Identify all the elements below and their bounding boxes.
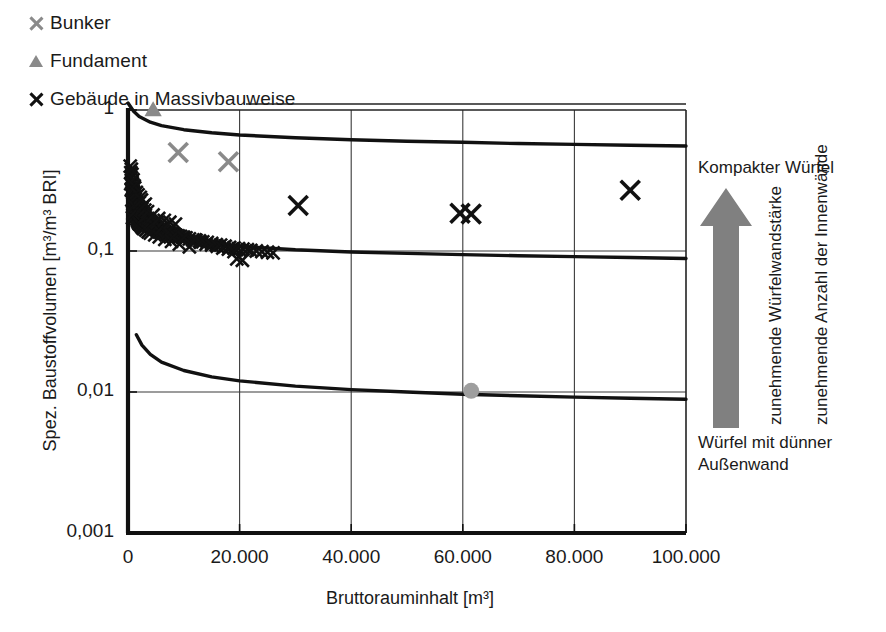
- annotation-bottom-line1: Würfel mit dünner: [698, 432, 832, 454]
- x-tick-label: 40.000: [296, 546, 406, 568]
- x-tick-label: 60.000: [408, 546, 518, 568]
- lower-reference-curve: [136, 335, 686, 400]
- data-point-x: [462, 204, 481, 223]
- x-tick-label: 20.000: [185, 546, 295, 568]
- data-point-x: [289, 196, 308, 215]
- annotation-bottom-label: Würfel mit dünner Außenwand: [698, 432, 832, 476]
- y-tick-label: 1: [34, 97, 114, 119]
- y-axis-title: Spez. Baustoffvolumen [m³/m³ BRI]: [40, 141, 61, 481]
- data-point-x: [621, 181, 640, 200]
- chart-page: Bunker Fundament Gebäude in Massivbauwei…: [0, 0, 886, 632]
- data-point-triangle: [144, 101, 161, 116]
- x-tick-label: 80.000: [519, 546, 629, 568]
- x-axis-title: Bruttorauminhalt [m³]: [280, 588, 540, 609]
- annotation-bottom-line2: Außenwand: [698, 454, 832, 476]
- annotation-arrow-label-1: zunehmende Würfelwandstärke: [766, 186, 786, 425]
- y-tick-label: 0,01: [34, 379, 114, 401]
- data-point-circle: [463, 383, 479, 399]
- data-point-x: [219, 152, 238, 171]
- annotation-arrow-label-2: zunehmende Anzahl der Innenwände: [812, 144, 832, 425]
- x-tick-label: 100.000: [631, 546, 741, 568]
- data-point-x: [169, 143, 188, 162]
- y-tick-label: 0,001: [34, 520, 114, 542]
- x-tick-label: 0: [73, 546, 183, 568]
- y-tick-label: 0,1: [34, 238, 114, 260]
